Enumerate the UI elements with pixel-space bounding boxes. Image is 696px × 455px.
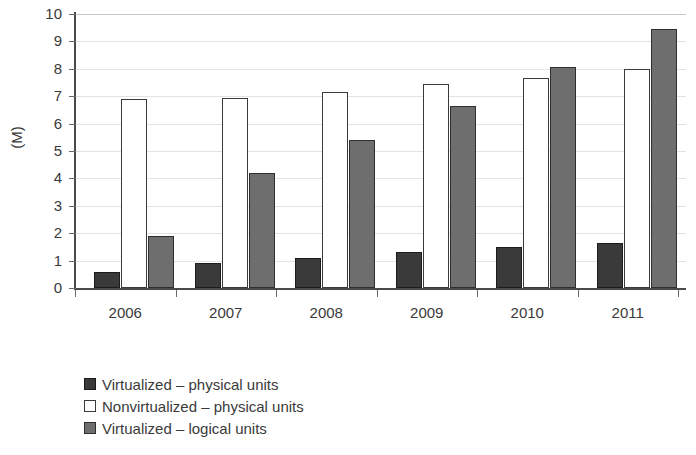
bar (148, 236, 174, 288)
y-axis-title: (M) (8, 108, 25, 168)
x-tick-mark (377, 290, 378, 297)
gridline (75, 69, 686, 70)
legend-swatch-icon (84, 422, 96, 434)
y-tick-label: 7 (28, 88, 62, 103)
y-tick-mark (69, 41, 76, 42)
gridline (75, 124, 686, 125)
x-tick-label: 2011 (578, 304, 678, 321)
y-tick-mark (69, 261, 76, 262)
x-tick-label: 2007 (176, 304, 276, 321)
x-tick-mark (678, 290, 679, 297)
y-tick-label: 0 (28, 280, 62, 295)
bar (450, 106, 476, 288)
bar (249, 173, 275, 288)
bar-chart: (M) 109876543210 20062007200820092010201… (0, 0, 696, 455)
bar (597, 243, 623, 288)
bar (624, 69, 650, 288)
gridline (75, 41, 686, 42)
legend-label: Virtualized – logical units (102, 420, 267, 437)
bar (295, 258, 321, 288)
bar (651, 29, 677, 288)
x-tick-label: 2010 (477, 304, 577, 321)
bar (523, 78, 549, 288)
y-tick-mark (69, 124, 76, 125)
legend-item[interactable]: Virtualized – logical units (84, 417, 304, 439)
bar (222, 98, 248, 288)
bar (550, 67, 576, 288)
y-tick-label: 6 (28, 116, 62, 131)
y-tick-label: 5 (28, 143, 62, 158)
bar (396, 252, 422, 288)
x-axis-line (74, 288, 686, 290)
bar (423, 84, 449, 288)
x-tick-mark (176, 290, 177, 297)
x-tick-mark (578, 290, 579, 297)
legend-item[interactable]: Virtualized – physical units (84, 373, 304, 395)
chart-legend: Virtualized – physical unitsNonvirtualiz… (84, 373, 304, 439)
y-tick-label: 2 (28, 225, 62, 240)
y-tick-mark (69, 69, 76, 70)
y-tick-label: 3 (28, 198, 62, 213)
bar (496, 247, 522, 288)
legend-swatch-icon (84, 400, 96, 412)
y-tick-mark (69, 233, 76, 234)
y-tick-mark (69, 206, 76, 207)
legend-swatch-icon (84, 378, 96, 390)
gridline (75, 96, 686, 97)
x-tick-mark (276, 290, 277, 297)
gridline (75, 178, 686, 179)
y-tick-label: 10 (28, 6, 62, 21)
y-tick-label: 8 (28, 61, 62, 76)
y-tick-mark (69, 288, 76, 289)
legend-item[interactable]: Nonvirtualized – physical units (84, 395, 304, 417)
gridline (75, 206, 686, 207)
x-tick-label: 2006 (75, 304, 175, 321)
y-tick-mark (69, 178, 76, 179)
bar (121, 99, 147, 288)
gridline (75, 233, 686, 234)
gridline (75, 151, 686, 152)
x-tick-mark (477, 290, 478, 297)
x-tick-label: 2009 (377, 304, 477, 321)
bar (94, 272, 120, 288)
bar (322, 92, 348, 288)
y-tick-mark (69, 96, 76, 97)
x-tick-label: 2008 (276, 304, 376, 321)
plot-area (75, 14, 686, 288)
y-tick-label: 1 (28, 253, 62, 268)
y-tick-label: 9 (28, 33, 62, 48)
bar (195, 263, 221, 288)
y-tick-label: 4 (28, 170, 62, 185)
y-tick-mark (69, 151, 76, 152)
x-tick-mark (75, 290, 76, 297)
legend-label: Virtualized – physical units (102, 376, 278, 393)
bar (349, 140, 375, 288)
legend-label: Nonvirtualized – physical units (102, 398, 304, 415)
gridline (75, 14, 686, 15)
y-tick-mark (69, 14, 76, 15)
